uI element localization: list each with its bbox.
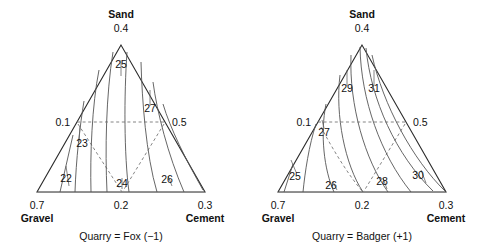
contour-label-25: 25 (289, 170, 301, 182)
contour-label-25: 25 (115, 58, 127, 70)
contour-label-27: 27 (318, 126, 330, 138)
contour-label-23: 23 (76, 137, 88, 149)
vertex-value-gravel: 0.7 (271, 199, 286, 211)
vertex-label-gravel: Gravel (262, 212, 295, 224)
contour-label-30: 30 (412, 169, 424, 181)
contour-28 (351, 55, 388, 192)
contour-label-28: 28 (376, 175, 388, 187)
panel-fox-plot: Sand 0.4 22 23 (0, 0, 242, 249)
tick-bottom-mid: 0.2 (355, 199, 370, 211)
contour-label-26: 26 (161, 173, 173, 185)
panel-badger-plot: Sand 0.4 25 26 27 28 (241, 0, 483, 249)
contour-24 (91, 70, 99, 192)
panel-fox: Sand 0.4 22 23 (0, 0, 242, 249)
tick-left-mid: 0.1 (296, 116, 311, 128)
contour-label-27: 27 (144, 102, 156, 114)
contour-label-26: 26 (325, 179, 337, 191)
panel-caption-fox: Quarry = Fox (−1) (79, 230, 162, 242)
vertex-label-cement: Cement (427, 212, 466, 224)
vertex-label-sand: Sand (108, 8, 134, 20)
contour-label-29: 29 (341, 82, 353, 94)
contour-label-31: 31 (368, 82, 380, 94)
tick-left-mid: 0.1 (55, 116, 70, 128)
ternary-contour-figure: Sand 0.4 22 23 (0, 0, 483, 249)
vertex-value-sand: 0.4 (114, 22, 129, 34)
contour-26a (303, 124, 316, 192)
vertex-value-cement: 0.3 (439, 199, 454, 211)
vertex-value-cement: 0.3 (198, 199, 213, 211)
tick-right-mid: 0.5 (172, 116, 187, 128)
vertex-value-sand: 0.4 (355, 22, 370, 34)
vertex-label-gravel: Gravel (21, 212, 54, 224)
contour-26 (141, 62, 157, 192)
vertex-label-sand: Sand (349, 8, 375, 20)
contour-label-22: 22 (60, 172, 72, 184)
constraint-diagonal-right (123, 124, 164, 191)
contour-29 (360, 47, 411, 192)
vertex-label-cement: Cement (186, 212, 225, 224)
vertex-value-gravel: 0.7 (30, 199, 45, 211)
contour-label-24: 24 (116, 177, 128, 189)
tick-right-mid: 0.5 (413, 116, 428, 128)
panel-caption-badger: Quarry = Badger (+1) (312, 230, 412, 242)
tick-bottom-mid: 0.2 (114, 199, 129, 211)
panel-badger: Sand 0.4 25 26 27 28 (241, 0, 483, 249)
